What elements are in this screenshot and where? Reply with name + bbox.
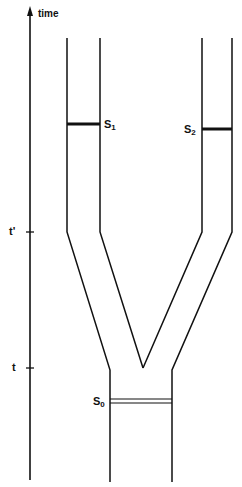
site-label-s2: S2: [184, 124, 196, 137]
site-label-s0: S0: [93, 396, 105, 409]
tick-label-t: t: [12, 362, 16, 373]
lineage-diagram: [0, 0, 242, 487]
arrow-up-icon: [27, 6, 33, 16]
time-axis: [26, 6, 34, 480]
axis-label-time: time: [38, 9, 59, 19]
left-branch: [67, 38, 143, 482]
site-s0-marker: [110, 399, 172, 403]
tick-label-t-prime: t': [9, 226, 15, 237]
site-label-s1: S1: [104, 119, 116, 132]
right-branch: [143, 38, 232, 482]
